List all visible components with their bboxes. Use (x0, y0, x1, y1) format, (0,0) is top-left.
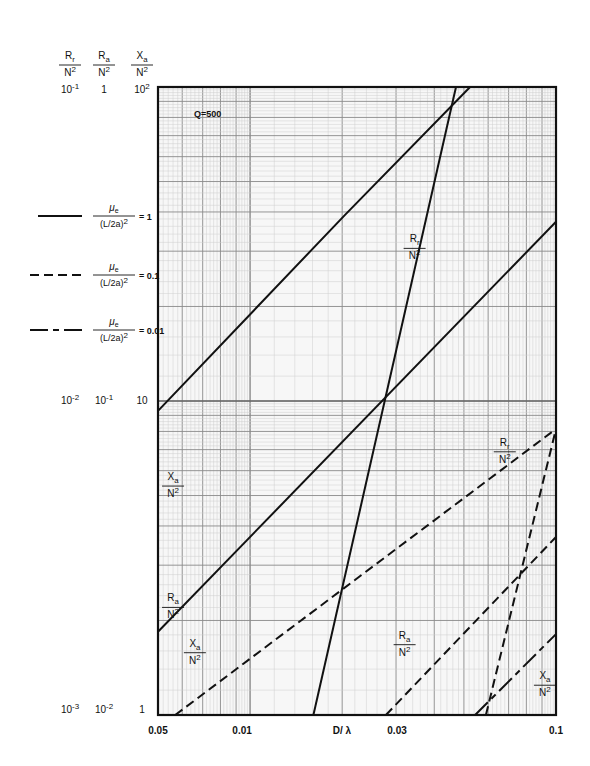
y-tick-label: 102 (134, 82, 150, 95)
legend-numerator: μe (108, 261, 118, 273)
x-tick-labels: 0.050.01D/ λ0.030.1 (148, 725, 563, 736)
y-axis-header-0: RrN2 (59, 50, 81, 78)
y-tick-label: 10-1 (61, 82, 80, 95)
fraction-numerator: Rr (65, 50, 75, 64)
y-tick-label: 1 (139, 704, 145, 715)
y-tick-label: 10-1 (95, 393, 114, 406)
legend-denominator: (L/2a)2 (100, 217, 129, 229)
x-tick-label: 0.05 (148, 725, 168, 736)
annotation-q: Q=500 (194, 109, 221, 119)
legend-entry-dashed: μe(L/2a)2= 0.1 (30, 261, 159, 288)
y-tick-label: 10-2 (61, 393, 80, 406)
y-axis-headers: RrN2RaN2XaN2 (59, 50, 153, 78)
legend-value: = 1 (139, 212, 152, 222)
legend-entry-dashdot: μe(L/2a)2= 0.01 (30, 316, 164, 343)
fraction-numerator: Ra (98, 50, 110, 64)
legend-value: = 0.1 (139, 271, 159, 281)
fraction-numerator: Xa (136, 50, 148, 64)
legend-entry-solid: μe(L/2a)2= 1 (38, 202, 152, 229)
y-tick-label: 1 (101, 84, 107, 95)
legend-numerator: μe (108, 202, 118, 214)
legend-denominator: (L/2a)2 (100, 331, 129, 343)
legend-denominator: (L/2a)2 (100, 276, 129, 288)
legend: μe(L/2a)2= 1μe(L/2a)2= 0.1μe(L/2a)2= 0.0… (30, 202, 164, 343)
x-tick-label: 0.1 (549, 725, 563, 736)
y-axis-header-1: RaN2 (93, 50, 115, 78)
fraction-denominator: N2 (98, 65, 110, 78)
chart: XaN2RrN2RaN2RrN2XaN2RaN2XaN2 Q=500 RrN2R… (0, 0, 590, 766)
fraction-denominator: N2 (136, 65, 148, 78)
fraction-denominator: N2 (64, 65, 76, 78)
y-axis-header-2: XaN2 (131, 50, 153, 78)
y-tick-labels: 10-110-210-3110-110-2102101 (61, 82, 150, 715)
y-tick-label: 10-3 (61, 702, 80, 715)
x-axis-title: D/ λ (333, 725, 352, 736)
legend-numerator: μe (108, 316, 118, 328)
x-tick-label: 0.03 (387, 725, 407, 736)
grid (158, 87, 556, 715)
y-tick-label: 10 (136, 395, 148, 406)
y-tick-label: 10-2 (95, 702, 114, 715)
x-tick-label: 0.01 (232, 725, 252, 736)
legend-value: = 0.01 (139, 326, 164, 336)
